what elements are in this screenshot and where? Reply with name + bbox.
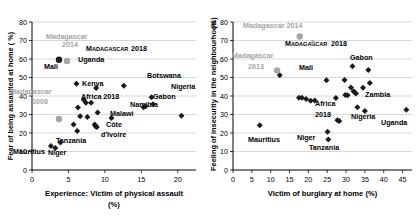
data-point xyxy=(325,136,331,142)
data-point xyxy=(297,33,303,39)
point-label: 2008 xyxy=(32,97,48,106)
y-tick-label: 70 xyxy=(220,36,228,45)
point-label: 2018 xyxy=(131,44,147,53)
point-label: Tanzania xyxy=(309,143,340,152)
point-label: Zambia xyxy=(365,90,391,99)
point-label: Mali xyxy=(44,62,58,71)
point-label: Africa xyxy=(315,99,336,108)
data-point xyxy=(121,83,127,89)
y-tick-label: 10 xyxy=(220,147,228,156)
point-label: Côte xyxy=(106,120,122,129)
data-point xyxy=(367,80,373,86)
y-axis-unit: (%) xyxy=(209,17,218,29)
scatter-plot-figure: 0102030405060708005101520Experience: Vic… xyxy=(0,0,419,221)
point-label: 2013 xyxy=(248,62,264,71)
point-label: Mali xyxy=(299,63,313,72)
x-tick-label: 10 xyxy=(267,175,275,184)
x-tick-label: 0 xyxy=(231,175,235,184)
y-tick-label: 50 xyxy=(19,73,27,82)
y-tick-label: 60 xyxy=(220,55,228,64)
point-label: d'Ivoire xyxy=(101,130,126,139)
data-point xyxy=(325,129,331,135)
y-tick-label: 60 xyxy=(19,55,27,64)
data-point xyxy=(71,121,77,127)
point-label: Madagascar xyxy=(232,51,274,60)
data-point xyxy=(56,116,62,122)
x-tick-label: 0 xyxy=(30,175,34,184)
x-tick-label: 30 xyxy=(342,175,350,184)
point-label: Malawi xyxy=(110,109,134,118)
data-point xyxy=(354,104,360,110)
left-scatter-chart: 0102030405060708005101520Experience: Vic… xyxy=(0,0,205,221)
x-tick-label: 25 xyxy=(323,175,331,184)
x-tick-label: 20 xyxy=(174,175,182,184)
y-tick-label: 30 xyxy=(19,110,27,119)
point-label: Mauritius xyxy=(13,147,45,156)
x-tick-label: 5 xyxy=(250,175,254,184)
data-point xyxy=(75,104,81,110)
point-label: Uganda xyxy=(78,55,105,64)
point-label: ADAGASCAR xyxy=(92,46,128,52)
data-point xyxy=(64,58,70,64)
point-label: Africa 2018 xyxy=(81,92,119,101)
y-tick-label: 70 xyxy=(19,36,27,45)
data-point xyxy=(84,114,90,120)
x-tick-label: 5 xyxy=(66,175,70,184)
y-tick-label: 20 xyxy=(220,129,228,138)
chart-panel-right: 01020304050607080051015202530354045Victi… xyxy=(205,0,419,221)
y-tick-label: 80 xyxy=(19,18,27,27)
data-point xyxy=(323,77,329,83)
chart-panel-left: 0102030405060708005101520Experience: Vic… xyxy=(0,0,205,221)
data-point xyxy=(178,113,184,119)
y-tick-label: 20 xyxy=(19,129,27,138)
x-tick-label: 45 xyxy=(399,175,407,184)
x-tick-label: 15 xyxy=(137,175,145,184)
point-label: 2014 xyxy=(62,40,78,49)
data-point xyxy=(56,57,62,63)
y-tick-label: 40 xyxy=(220,92,228,101)
point-label: Botswana xyxy=(147,71,182,80)
data-point xyxy=(365,67,371,73)
y-tick-label: 0 xyxy=(23,166,27,175)
x-axis-unit: (%) xyxy=(108,200,120,209)
data-point xyxy=(349,63,355,69)
x-axis-title: Victim of burglary at home (%) xyxy=(268,189,378,198)
y-tick-label: 50 xyxy=(220,73,228,82)
point-label: ADAGASCAR xyxy=(291,41,327,47)
point-label: Nigeria xyxy=(171,82,196,91)
point-label: Mauritius xyxy=(248,135,280,144)
data-point xyxy=(274,67,280,73)
point-label: 2018 xyxy=(331,39,347,48)
x-tick-label: 20 xyxy=(304,175,312,184)
point-label: Madagascar xyxy=(10,87,52,96)
x-axis-title: Experience: Victim of physical assault xyxy=(45,189,183,198)
point-label: Nigeria xyxy=(351,112,376,121)
point-label: Kenya xyxy=(82,79,105,88)
data-point xyxy=(403,107,409,113)
y-axis-title: Feeling of insecurity in the neighbourho… xyxy=(209,21,218,171)
y-tick-label: 30 xyxy=(220,110,228,119)
x-tick-label: 10 xyxy=(101,175,109,184)
point-label: Niger xyxy=(48,148,67,157)
x-tick-label: 15 xyxy=(286,175,294,184)
data-point xyxy=(257,122,263,128)
x-tick-label: 40 xyxy=(380,175,388,184)
point-label: Niger xyxy=(297,133,316,142)
point-label: Gabon xyxy=(350,53,373,62)
right-scatter-chart: 01020304050607080051015202530354045Victi… xyxy=(205,0,419,221)
point-label: 2018 xyxy=(315,110,331,119)
y-tick-label: 80 xyxy=(220,18,228,27)
point-label: Uganda xyxy=(381,118,408,127)
x-tick-label: 35 xyxy=(361,175,369,184)
data-point xyxy=(342,77,348,83)
point-label: Madagascar 2014 xyxy=(243,21,303,30)
data-point xyxy=(73,81,79,87)
y-tick-label: 0 xyxy=(224,166,228,175)
